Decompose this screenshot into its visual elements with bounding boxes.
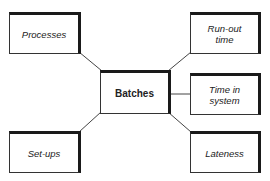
node-label: Time in system <box>209 84 240 106</box>
node-label: Batches <box>115 88 154 99</box>
node-lateness: Lateness <box>190 131 261 173</box>
edge-batches-processes <box>79 52 102 71</box>
node-run-out-time: Run-out time <box>190 12 261 54</box>
node-label: Processes <box>22 29 66 40</box>
edge-batches-set-ups <box>79 112 101 132</box>
node-processes: Processes <box>9 12 81 54</box>
node-batches: Batches <box>100 70 171 114</box>
edge-batches-lateness <box>168 112 191 132</box>
node-label: Run-out time <box>208 23 242 45</box>
edge-batches-run-out-time <box>168 52 191 71</box>
node-time-in-system: Time in system <box>190 73 261 115</box>
node-set-ups: Set-ups <box>9 131 81 173</box>
node-label: Set-ups <box>28 148 61 159</box>
node-label: Lateness <box>205 148 244 159</box>
